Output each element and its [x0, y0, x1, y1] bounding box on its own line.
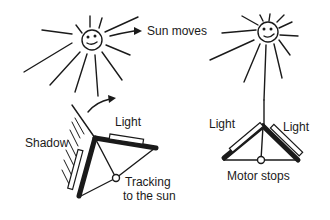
- left-sun-icon: [24, 16, 138, 96]
- right-sun-icon: [210, 14, 298, 126]
- light-label-right-panel-left: Light: [209, 118, 235, 131]
- tracking-label-line1: Tracking: [125, 176, 171, 189]
- sun-moves-label: Sun moves: [147, 25, 207, 38]
- motor-stops-label: Motor stops: [227, 170, 290, 183]
- light-label-right-panel-right: Light: [283, 121, 309, 134]
- sun-tracker-diagram: Sun moves Shadow Light Tracking to the s…: [0, 0, 330, 220]
- shadow-label: Shadow: [25, 137, 68, 150]
- tracking-label-line2: to the sun: [123, 190, 176, 203]
- light-label-left-panel: Light: [115, 116, 141, 129]
- sun-moves-arrow-icon: [110, 27, 142, 36]
